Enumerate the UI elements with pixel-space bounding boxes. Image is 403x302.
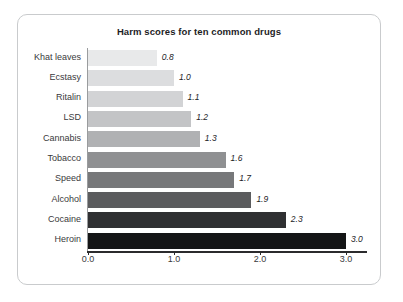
bar-value-label: 3.0	[351, 234, 363, 244]
bar	[88, 70, 174, 86]
bar-value-label: 2.3	[291, 214, 303, 224]
category-label: Khat leaves	[34, 52, 81, 62]
category-label: Tobacco	[47, 153, 81, 163]
category-label: Cocaine	[48, 214, 81, 224]
bar-row: Khat leaves0.8	[88, 48, 346, 68]
bar-value-label: 0.8	[162, 52, 174, 62]
bar-value-label: 1.9	[256, 194, 268, 204]
category-label: LSD	[63, 112, 81, 122]
bar-value-label: 1.3	[205, 133, 217, 143]
x-axis-line	[87, 251, 367, 253]
category-label: Cannabis	[43, 133, 81, 143]
bar-value-label: 1.6	[231, 153, 243, 163]
bar-value-label: 1.2	[196, 112, 208, 122]
bar-row: LSD1.2	[88, 109, 346, 129]
bar-row: Cocaine2.3	[88, 210, 346, 230]
category-label: Speed	[55, 173, 81, 183]
plot-area: Khat leaves0.8Ecstasy1.0Ritalin1.1LSD1.2…	[88, 48, 346, 251]
bar	[88, 233, 346, 249]
bar	[88, 131, 200, 147]
bar-row: Heroin3.0	[88, 231, 346, 251]
bar	[88, 50, 157, 66]
bar-row: Cannabis1.3	[88, 129, 346, 149]
category-label: Ecstasy	[49, 72, 81, 82]
chart-card: Harm scores for ten common drugs Khat le…	[17, 14, 381, 285]
bar-value-label: 1.0	[179, 72, 191, 82]
bar	[88, 152, 226, 168]
bar-row: Alcohol1.9	[88, 190, 346, 210]
x-tick-label: 1.0	[168, 254, 181, 264]
bar	[88, 212, 286, 228]
bar-value-label: 1.7	[239, 173, 251, 183]
chart-title: Harm scores for ten common drugs	[18, 26, 380, 37]
bar-value-label: 1.1	[188, 92, 200, 102]
bar-row: Speed1.7	[88, 170, 346, 190]
category-label: Heroin	[54, 234, 81, 244]
bar	[88, 172, 234, 188]
category-label: Ritalin	[56, 92, 81, 102]
bar-row: Ecstasy1.0	[88, 68, 346, 88]
x-tick-label: 0.0	[82, 254, 95, 264]
bar-row: Ritalin1.1	[88, 89, 346, 109]
bar	[88, 91, 183, 107]
x-tick-label: 3.0	[340, 254, 353, 264]
x-tick-label: 2.0	[254, 254, 267, 264]
bar-row: Tobacco1.6	[88, 150, 346, 170]
bar	[88, 192, 251, 208]
bar	[88, 111, 191, 127]
category-label: Alcohol	[51, 194, 81, 204]
